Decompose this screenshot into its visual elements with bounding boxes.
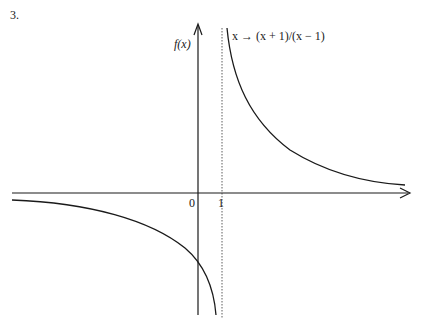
y-axis-label: f(x) (174, 37, 191, 52)
curve-right-branch (227, 28, 405, 185)
tick-label-0: 0 (189, 196, 195, 211)
function-graph (0, 0, 425, 328)
tick-label-1: 1 (218, 196, 224, 211)
function-label: x → (x + 1)/(x − 1) (232, 29, 325, 44)
curve-left-branch (12, 200, 216, 315)
